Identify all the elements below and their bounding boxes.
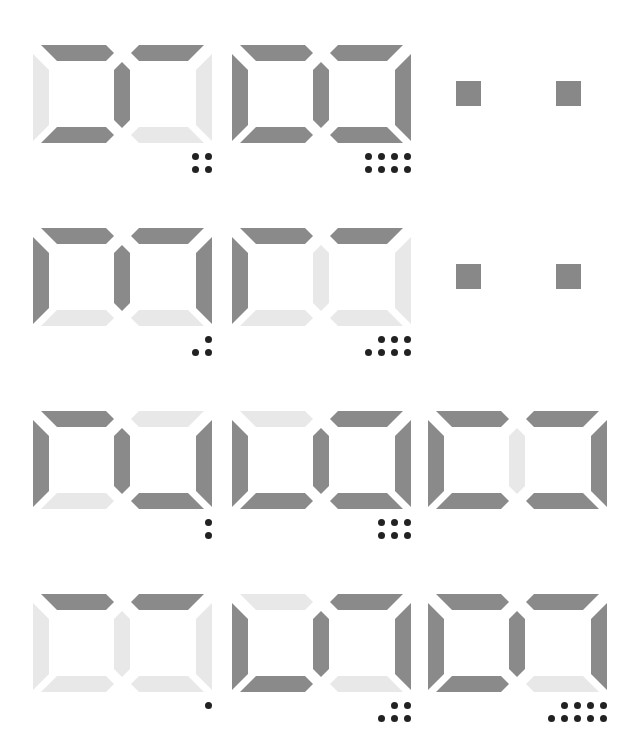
dot [404,519,411,526]
dot [391,166,398,173]
dot [574,702,581,709]
segment-left-on [232,420,248,507]
dot [378,166,385,173]
segment-middle-on [114,428,130,494]
dot [587,702,594,709]
segment-bottom-left-off [41,676,114,692]
dot [365,153,372,160]
dot-count [428,702,608,732]
segment-right-on [395,420,411,507]
segment-right-on [196,237,212,324]
segment-right-off [395,237,411,324]
dot [561,715,568,722]
dot [378,153,385,160]
segment-bottom-right-off [330,676,403,692]
dot-count [232,153,412,183]
dot [404,336,411,343]
answer-square[interactable] [556,264,581,289]
dot [391,702,398,709]
dot [404,349,411,356]
segment-right-on [591,603,607,690]
segment-top-left-on [436,594,509,610]
segment-middle-on [313,62,329,128]
segment-middle-on [313,428,329,494]
segment-bottom-left-off [41,310,114,326]
dot [404,153,411,160]
segment-glyph [232,45,412,145]
segment-top-right-on [131,228,204,244]
segment-middle-on [313,611,329,677]
segment-top-right-off [131,411,204,427]
segment-bottom-right-off [526,676,599,692]
segment-left-on [232,237,248,324]
segment-bottom-left-on [240,127,313,143]
dot-count [33,702,213,732]
segment-top-left-on [240,45,313,61]
segment-bottom-left-off [240,310,313,326]
segment-bottom-right-on [330,493,403,509]
segment-bottom-right-off [131,127,204,143]
segment-left-off [33,54,49,141]
dot [391,336,398,343]
segment-bottom-right-off [131,310,204,326]
segment-top-left-on [436,411,509,427]
segment-bottom-right-off [330,310,403,326]
segment-glyph [232,411,412,511]
dot [391,519,398,526]
segment-glyph [33,594,213,694]
segment-top-left-on [41,45,114,61]
segment-top-right-on [526,411,599,427]
dot [192,153,199,160]
dot-count [428,519,608,549]
answer-square[interactable] [456,81,481,106]
segment-left-off [33,603,49,690]
segment-glyph [33,45,213,145]
segment-glyph [33,228,213,328]
dot [404,532,411,539]
segment-top-right-on [330,228,403,244]
segment-top-left-on [41,228,114,244]
segment-top-left-on [41,411,114,427]
segment-bottom-right-on [330,127,403,143]
dot [378,715,385,722]
segment-top-left-off [240,411,313,427]
segment-left-on [232,603,248,690]
dot [205,532,212,539]
dot [205,336,212,343]
segment-bottom-left-on [436,493,509,509]
dot [192,349,199,356]
dot [205,166,212,173]
dot [391,532,398,539]
dot [391,715,398,722]
dot [574,715,581,722]
segment-right-on [395,603,411,690]
segment-bottom-left-on [436,676,509,692]
segment-right-off [196,603,212,690]
segment-glyph [428,594,608,694]
dot [365,349,372,356]
segment-right-on [196,420,212,507]
dot [205,702,212,709]
segment-middle-off [509,428,525,494]
dot-count [232,336,412,366]
segment-glyph [232,228,412,328]
answer-square[interactable] [556,81,581,106]
dot [378,519,385,526]
segment-bottom-left-on [41,127,114,143]
dot-count [232,519,412,549]
segment-top-right-on [131,45,204,61]
segment-top-left-on [41,594,114,610]
segment-top-right-on [131,594,204,610]
dot [391,153,398,160]
segment-top-left-off [240,594,313,610]
segment-left-on [428,603,444,690]
dot [587,715,594,722]
dot [391,349,398,356]
segment-right-on [395,54,411,141]
dot [205,519,212,526]
dot [600,715,607,722]
dot [600,702,607,709]
dot-count [33,153,213,183]
answer-square[interactable] [456,264,481,289]
segment-bottom-right-off [131,676,204,692]
